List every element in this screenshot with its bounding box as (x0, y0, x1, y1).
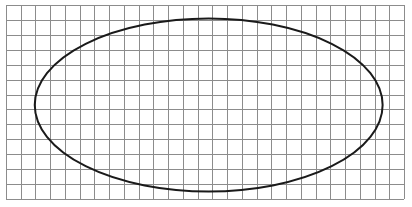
grid-diagram (0, 0, 412, 207)
grid-lines (6, 5, 405, 200)
